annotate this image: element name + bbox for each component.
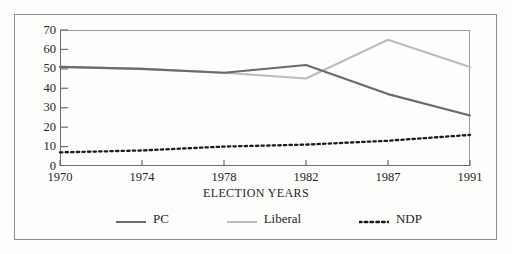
x-tick-1978: 1978 bbox=[212, 170, 237, 184]
series-line-pc bbox=[60, 65, 470, 116]
legend-swatch-ndp bbox=[359, 213, 389, 223]
legend-swatch-liberal bbox=[227, 213, 257, 223]
x-tick-1974: 1974 bbox=[130, 170, 155, 184]
series-line-liberal bbox=[60, 40, 470, 79]
legend-label-liberal: Liberal bbox=[264, 212, 302, 225]
legend-item-pc: PC bbox=[116, 212, 169, 225]
legend-label-ndp: NDP bbox=[396, 212, 422, 225]
series-line-ndp bbox=[60, 135, 470, 152]
legend-item-ndp: NDP bbox=[359, 212, 422, 225]
legend-swatch-pc bbox=[116, 213, 146, 223]
x-tick-1987: 1987 bbox=[376, 170, 401, 184]
legend-item-liberal: Liberal bbox=[227, 212, 302, 225]
x-tick-1970: 1970 bbox=[48, 170, 73, 184]
chart-figure: 70 60 50 40 30 20 10 0 1970 1974 1978 19… bbox=[0, 0, 512, 254]
x-tick-1991: 1991 bbox=[458, 170, 483, 184]
chart-legend: PC Liberal NDP bbox=[60, 208, 470, 228]
y-axis-ticks bbox=[60, 30, 68, 147]
x-axis-ticks bbox=[60, 160, 470, 166]
legend-label-pc: PC bbox=[153, 212, 169, 225]
x-tick-1982: 1982 bbox=[294, 170, 319, 184]
x-axis-title: ELECTION YEARS bbox=[0, 186, 512, 201]
